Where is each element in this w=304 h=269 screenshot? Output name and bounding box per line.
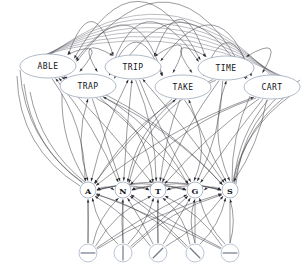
- word-node-label: TRAP: [78, 82, 99, 91]
- word-node[interactable]: TRIP: [105, 55, 161, 79]
- word-node-label: ABLE: [38, 62, 59, 71]
- word-node[interactable]: ABLE: [20, 54, 76, 78]
- diagram-canvas: ABLETRAPTRIPTAKETIMECART ANTGS: [0, 0, 304, 269]
- letter-node-label: T: [155, 186, 161, 196]
- letter-node-label: S: [227, 186, 233, 196]
- word-node[interactable]: CART: [244, 75, 300, 99]
- network-graph: ABLETRAPTRIPTAKETIMECART ANTGS: [0, 0, 304, 269]
- letter-node-label: A: [84, 186, 92, 196]
- letter-node[interactable]: G: [187, 182, 203, 198]
- letter-node[interactable]: N: [115, 182, 131, 198]
- word-node-label: TAKE: [173, 83, 194, 92]
- word-node[interactable]: TRAP: [60, 74, 116, 98]
- feature-to-letter-edges: [88, 194, 233, 249]
- word-node-label: TIME: [216, 64, 237, 73]
- feature-node[interactable]: [221, 244, 239, 262]
- word-node[interactable]: TIME: [198, 56, 254, 80]
- word-node-label: CART: [262, 83, 283, 92]
- word-node[interactable]: TAKE: [155, 75, 211, 99]
- feature-node[interactable]: [79, 244, 97, 262]
- letter-node-label: G: [192, 186, 199, 196]
- feature-node[interactable]: [149, 244, 167, 262]
- feature-node-layer: [79, 244, 239, 262]
- feature-node[interactable]: [186, 244, 204, 262]
- word-node-layer: ABLETRAPTRIPTAKETIMECART: [20, 54, 300, 99]
- feature-node[interactable]: [114, 244, 132, 262]
- letter-node-label: N: [119, 186, 126, 196]
- letter-node[interactable]: A: [80, 182, 96, 198]
- word-node-label: TRIP: [123, 63, 144, 72]
- letter-node[interactable]: S: [222, 182, 238, 198]
- letter-node[interactable]: T: [150, 182, 166, 198]
